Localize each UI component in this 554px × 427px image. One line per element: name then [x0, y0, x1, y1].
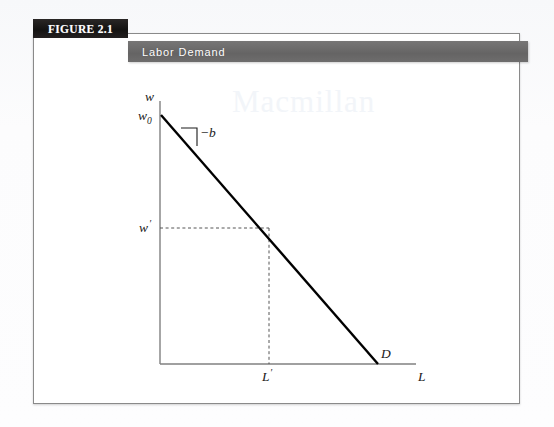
demand-curve-label: D	[380, 346, 391, 361]
x-axis-label: L	[417, 369, 426, 384]
slope-label: −b	[200, 125, 216, 140]
slope-angle-marker	[181, 128, 197, 146]
labor-prime-mark: ′	[270, 367, 273, 378]
wage-prime-mark: ′	[149, 218, 152, 229]
page-background: Macmillan FIGURE 2.1 Labor Demand w w 0 …	[0, 0, 554, 427]
intercept-label-subscript: 0	[147, 116, 152, 126]
intercept-label: w	[138, 108, 147, 123]
labor-demand-chart: w w 0 −b w ′ L ′ D L	[33, 33, 520, 404]
labor-prime-label: L	[261, 369, 270, 384]
y-axis-label: w	[145, 89, 154, 104]
demand-curve	[161, 115, 378, 364]
wage-prime-label: w	[139, 220, 148, 235]
